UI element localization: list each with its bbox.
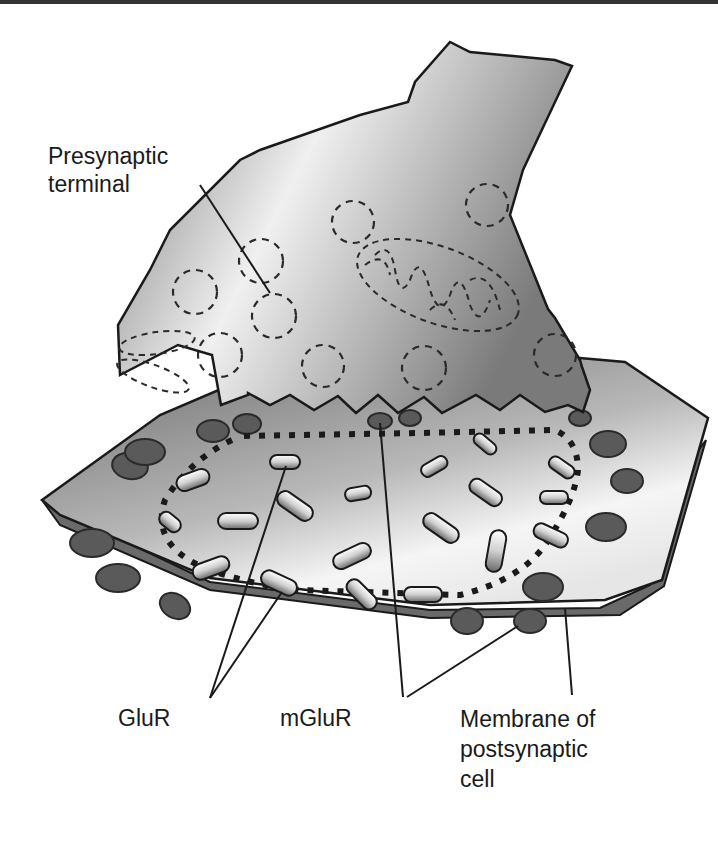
synapse-diagram [0,0,718,856]
mglur-leader-line-2 [407,626,518,697]
membrane-postsynaptic-label: Membrane of postsynaptic cell [460,704,596,794]
glur-label: GluR [118,704,170,732]
membrane-label-line1: Membrane of [460,704,596,734]
glur-leader-line-2 [210,592,282,698]
membrane-label-line2: postsynaptic [460,734,596,764]
presynaptic-label-line2: terminal [48,170,168,198]
presynaptic-terminal-label: Presynaptic terminal [48,142,168,198]
presynaptic-label-line1: Presynaptic [48,142,168,170]
membrane-leader-line [565,608,572,695]
mglur-label: mGluR [280,704,352,732]
presynaptic-terminal [118,42,590,413]
membrane-label-line3: cell [460,764,596,794]
